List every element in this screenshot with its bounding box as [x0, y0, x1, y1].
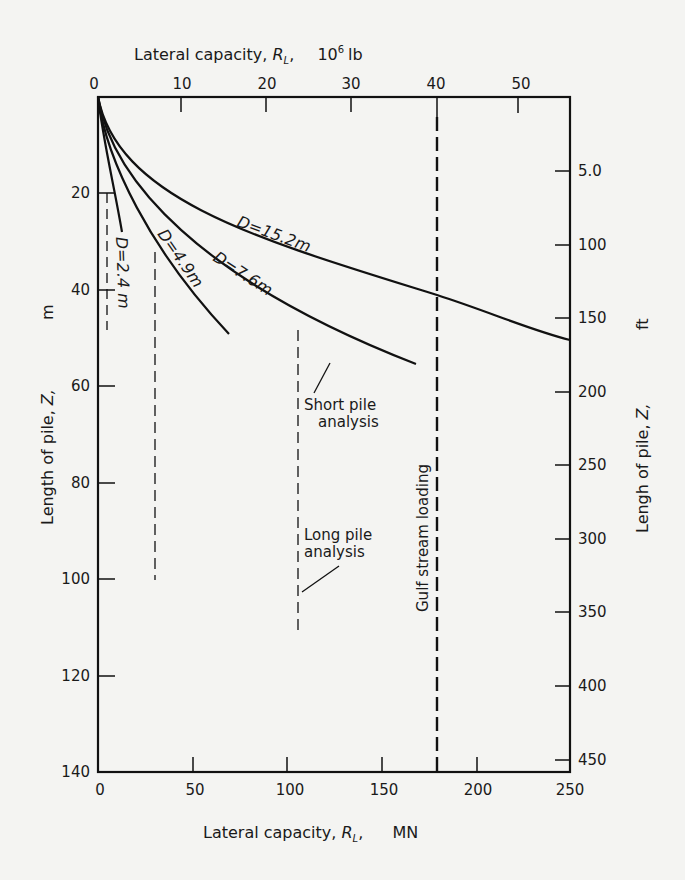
top-tick-label: 0 [89, 75, 99, 93]
right-tick-label: 100 [578, 236, 607, 254]
bottom-tick-label: 200 [464, 781, 493, 799]
long-pile-leader [302, 566, 339, 592]
left-axis-unit: m [38, 304, 57, 320]
right-tick-label: 300 [578, 530, 607, 548]
left-tick-label: 60 [71, 377, 90, 395]
bottom-tick-label: 250 [556, 781, 585, 799]
label-d76: D=7.6m [210, 247, 276, 299]
bottom-tick-label: 100 [276, 781, 305, 799]
right-tick-label: 450 [578, 751, 607, 769]
top-tick-label: 40 [426, 75, 445, 93]
right-axis-unit: ft [633, 318, 652, 330]
left-tick-label: 80 [71, 474, 90, 492]
label-d152: D=15.2m [235, 212, 314, 256]
bottom-axis-title: Lateral capacity, RL, MN [203, 823, 418, 844]
top-tick-label: 50 [511, 75, 530, 93]
label-d49: D=4.9m [154, 225, 208, 291]
bottom-tick-label: 150 [370, 781, 399, 799]
long-pile-label-2: analysis [304, 543, 365, 561]
left-tick-label: 40 [71, 281, 90, 299]
right-tick-label: 150 [578, 309, 607, 327]
top-tick-label: 10 [172, 75, 191, 93]
long-pile-label-1: Long pile [304, 526, 372, 544]
left-tick-label: 120 [61, 667, 90, 685]
right-tick-label: 250 [578, 456, 607, 474]
right-tick-label: 400 [578, 677, 607, 695]
bottom-tick-label: 0 [95, 781, 105, 799]
right-axis-title: Lengh of pile, Z, [633, 403, 652, 533]
short-pile-label-2: analysis [318, 413, 379, 431]
bottom-tick-label: 50 [185, 781, 204, 799]
left-tick-label: 140 [61, 763, 90, 781]
right-axis [555, 171, 570, 760]
left-axis-title: Length of pile, Z, [38, 389, 57, 525]
label-d24: D=2.4 m [112, 236, 133, 308]
chart-canvas: Lateral capacity, RL, 106lb 0 10 20 30 4… [0, 0, 685, 880]
short-pile-label-1: Short pile [304, 396, 376, 414]
right-tick-label: 5.0 [578, 162, 602, 180]
top-axis-title: Lateral capacity, RL, 106lb [134, 44, 363, 66]
bottom-axis [193, 757, 477, 772]
plot-frame [98, 97, 570, 772]
right-tick-label: 200 [578, 383, 607, 401]
left-tick-label: 20 [71, 184, 90, 202]
top-tick-label: 20 [257, 75, 276, 93]
short-pile-leader [314, 363, 330, 393]
top-axis [181, 97, 518, 117]
top-tick-label: 30 [341, 75, 360, 93]
gulf-stream-label: Gulf stream loading [414, 464, 432, 612]
left-tick-label: 100 [61, 570, 90, 588]
right-tick-label: 350 [578, 603, 607, 621]
